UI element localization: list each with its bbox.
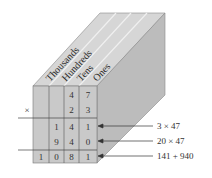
cell: 2 [69, 105, 74, 115]
cell: 3 [86, 105, 91, 115]
multiply-operator: × [24, 105, 29, 115]
cell: 1 [86, 152, 91, 162]
cell: 9 [54, 137, 59, 147]
cell: 4 [69, 122, 74, 132]
arrow-icon [98, 154, 153, 158]
cell: 0 [86, 137, 91, 147]
cell: 0 [54, 152, 59, 162]
annotation-20x47: 20 × 47 [157, 136, 185, 146]
annotation-sum: 141 + 940 [157, 151, 194, 161]
annotation-labels: 3 × 47 20 × 47 141 + 940 [157, 121, 194, 161]
cell: 1 [86, 122, 91, 132]
place-value-box-diagram: Thousands Hundreds Tens Ones × 4 7 2 3 1… [0, 0, 212, 178]
cell: 4 [69, 137, 74, 147]
cell: 4 [69, 90, 74, 100]
cell: 1 [39, 152, 44, 162]
cell: 8 [69, 152, 74, 162]
cell: 7 [86, 90, 91, 100]
cell: 1 [54, 122, 59, 132]
annotation-3x47: 3 × 47 [157, 121, 181, 131]
